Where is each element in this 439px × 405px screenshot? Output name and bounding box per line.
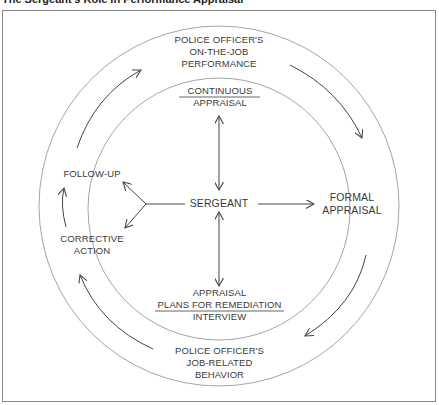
label-line: FORMAL — [316, 191, 388, 204]
label-line: POLICE OFFICER'S — [150, 345, 289, 357]
label-line: BEHAVIOR — [150, 369, 289, 381]
arrow-formal-to-behavior — [305, 255, 366, 336]
label-line: APPRAISAL — [150, 287, 289, 299]
arrow-performance-to-formal — [290, 65, 362, 138]
label-corrective-action: CORRECTIVE ACTION — [56, 233, 128, 257]
label-formal-appraisal: FORMAL APPRAISAL — [316, 191, 388, 217]
label-job-related-behavior: POLICE OFFICER'S JOB-RELATED BEHAVIOR — [150, 345, 289, 381]
label-line: FOLLOW-UP — [56, 168, 128, 180]
label-line: APPRAISAL — [170, 97, 270, 109]
label-line: POLICE OFFICER'S — [150, 34, 288, 46]
label-continuous-appraisal: CONTINUOUS APPRAISAL — [170, 85, 270, 109]
arrow-behavior-to-corrective — [80, 275, 153, 349]
label-line: PLANS FOR REMEDIATION — [150, 299, 289, 311]
label-on-the-job-performance: POLICE OFFICER'S ON-THE-JOB PERFORMANCE — [150, 34, 288, 70]
label-line: CONTINUOUS — [170, 85, 270, 97]
arrow-followup-to-performance — [77, 70, 141, 148]
label-line: ACTION — [56, 245, 128, 257]
label-line: APPRAISAL — [316, 204, 388, 217]
label-line: INTERVIEW — [150, 311, 289, 323]
label-follow-up: FOLLOW-UP — [56, 168, 128, 180]
arrow-fork-corrective — [125, 204, 146, 228]
arrow-fork-followup — [123, 182, 146, 204]
label-appraisal-interview: APPRAISAL PLANS FOR REMEDIATION INTERVIE… — [150, 287, 289, 323]
label-line: SERGEANT — [179, 197, 259, 209]
label-sergeant: SERGEANT — [179, 197, 259, 209]
label-line: CORRECTIVE — [56, 233, 128, 245]
arrow-corrective-to-followup — [62, 188, 66, 227]
label-line: PERFORMANCE — [150, 58, 288, 70]
label-line: ON-THE-JOB — [150, 46, 288, 58]
label-line: JOB-RELATED — [150, 357, 289, 369]
